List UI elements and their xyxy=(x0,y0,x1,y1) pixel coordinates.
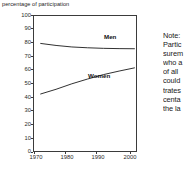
y-tick-label: 50 xyxy=(3,80,31,86)
note-line: the la xyxy=(163,104,193,113)
note-line: Note: xyxy=(163,31,193,40)
x-axis-tick-labels: 1970 1980 1990 2000 xyxy=(0,154,193,164)
series-lines xyxy=(34,16,138,153)
series-label-men: Men xyxy=(104,33,116,40)
y-tick-mark xyxy=(31,152,33,153)
y-axis-tick-labels: 100 90 80 70 60 50 40 30 20 10 0 xyxy=(0,0,31,171)
series-label-women: Women xyxy=(88,72,110,79)
participation-line-chart: percentage of participation 100 90 80 70… xyxy=(0,0,193,171)
note-line: could xyxy=(163,76,193,85)
y-tick-label: 30 xyxy=(3,107,31,113)
y-tick-label: 70 xyxy=(3,53,31,59)
y-tick-label: 10 xyxy=(3,135,31,141)
men-line xyxy=(40,43,135,48)
y-tick-label: 80 xyxy=(3,39,31,45)
x-tick-label: 1970 xyxy=(30,154,43,160)
y-tick-label: 90 xyxy=(3,25,31,31)
y-tick-label: 100 xyxy=(3,12,31,18)
note-line: surem xyxy=(163,49,193,58)
y-tick-label: 20 xyxy=(3,121,31,127)
note-line: who a xyxy=(163,58,193,67)
y-tick-label: 60 xyxy=(3,66,31,72)
note-line: centa xyxy=(163,95,193,104)
x-tick-label: 1990 xyxy=(92,154,105,160)
note-line: Partic xyxy=(163,40,193,49)
y-tick-label: 40 xyxy=(3,94,31,100)
chart-note: Note: Partic surem who a of all could tr… xyxy=(163,31,193,113)
x-tick-label: 1980 xyxy=(61,154,74,160)
plot-area xyxy=(33,15,137,152)
note-line: trates xyxy=(163,86,193,95)
note-line: of all xyxy=(163,67,193,76)
x-tick-label: 2000 xyxy=(124,154,137,160)
